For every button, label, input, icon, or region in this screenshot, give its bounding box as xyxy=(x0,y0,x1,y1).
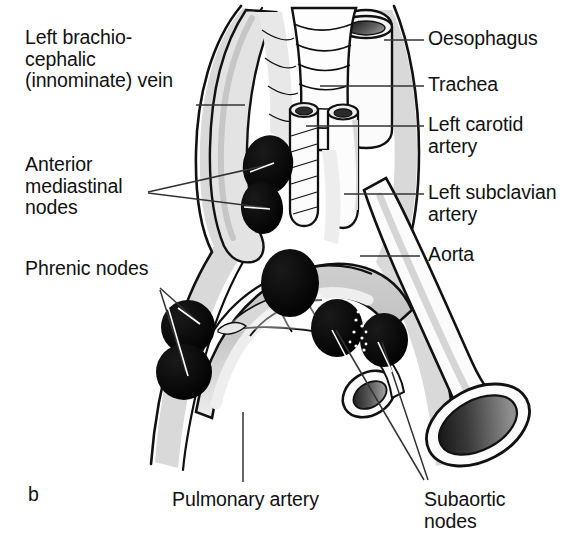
figure-letter: b xyxy=(28,483,39,506)
label-left-brachiocephalic-vein: Left brachio- cephalic (innominate) vein xyxy=(25,27,173,92)
para-aortic-node-central xyxy=(261,249,319,317)
left-carotid-body xyxy=(290,110,318,226)
phrenic-node-lower xyxy=(156,344,212,400)
label-left-carotid-artery: Left carotid artery xyxy=(428,114,523,157)
label-phrenic-nodes: Phrenic nodes xyxy=(25,258,148,280)
label-left-subclavian-artery: Left subclavian artery xyxy=(428,182,557,225)
left-carotid-lumen xyxy=(296,107,313,115)
left-subclavian-lumen xyxy=(334,109,352,117)
label-aorta: Aorta xyxy=(428,244,474,266)
mediastinal-shading-centre xyxy=(322,150,340,244)
subaortic-node-right xyxy=(360,313,408,367)
subaortic-node-left xyxy=(311,299,363,357)
label-pulmonary-artery: Pulmonary artery xyxy=(172,489,319,511)
left-carotid-artery xyxy=(290,103,318,226)
label-trachea: Trachea xyxy=(428,74,498,96)
label-subaortic-nodes: Subaortic nodes xyxy=(424,489,505,532)
label-oesophagus: Oesophagus xyxy=(428,28,538,50)
anatomical-figure: 0% xyxy=(0,0,565,545)
trachea-left-shading xyxy=(258,12,293,146)
label-anterior-mediastinal-nodes: Anterior mediastinal nodes xyxy=(25,154,123,219)
